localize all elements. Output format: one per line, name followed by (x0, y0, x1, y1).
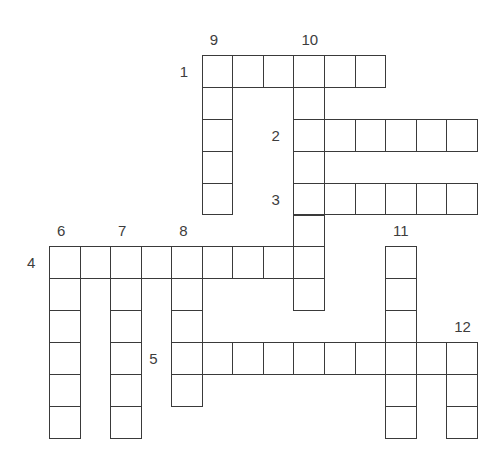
crossword-cell[interactable] (385, 342, 417, 375)
clue-number-across: 3 (271, 192, 279, 207)
clue-number-down: 10 (301, 32, 318, 47)
crossword-cell[interactable] (293, 246, 325, 279)
crossword-cell[interactable] (385, 310, 417, 343)
clue-number-down: 9 (210, 32, 218, 47)
crossword-cell[interactable] (324, 183, 356, 216)
crossword-cell[interactable] (202, 342, 234, 375)
crossword-cell[interactable] (110, 406, 142, 439)
clue-number-down: 11 (393, 223, 409, 238)
crossword-cell[interactable] (355, 55, 387, 88)
crossword-cell[interactable] (416, 342, 448, 375)
crossword-cell[interactable] (446, 183, 478, 216)
crossword-cell[interactable] (355, 183, 387, 216)
clue-number-across: 5 (149, 351, 157, 366)
crossword-cell[interactable] (385, 374, 417, 407)
crossword-cell[interactable] (324, 55, 356, 88)
crossword-cell[interactable] (446, 406, 478, 439)
crossword-cell[interactable] (355, 119, 387, 152)
crossword-cell[interactable] (232, 342, 264, 375)
crossword-cell[interactable] (293, 183, 325, 216)
crossword-cell[interactable] (293, 55, 325, 88)
crossword-cell[interactable] (416, 119, 448, 152)
crossword-cell[interactable] (110, 374, 142, 407)
crossword-cell[interactable] (49, 278, 81, 311)
crossword-cell[interactable] (49, 406, 81, 439)
crossword-cell[interactable] (293, 87, 325, 120)
crossword-cell[interactable] (232, 55, 264, 88)
crossword-cell[interactable] (293, 151, 325, 184)
crossword-cell[interactable] (49, 246, 81, 279)
crossword-cell[interactable] (110, 342, 142, 375)
crossword-cell[interactable] (110, 246, 142, 279)
crossword-cell[interactable] (49, 310, 81, 343)
crossword-grid: 123456789101112 (0, 0, 502, 460)
crossword-cell[interactable] (110, 278, 142, 311)
crossword-cell[interactable] (385, 246, 417, 279)
crossword-cell[interactable] (263, 342, 295, 375)
clue-number-down: 8 (179, 223, 187, 238)
crossword-cell[interactable] (446, 342, 478, 375)
crossword-cell[interactable] (293, 278, 325, 311)
crossword-cell[interactable] (232, 246, 264, 279)
crossword-cell[interactable] (263, 55, 295, 88)
crossword-cell[interactable] (110, 310, 142, 343)
crossword-cell[interactable] (202, 119, 234, 152)
crossword-cell[interactable] (416, 183, 448, 216)
clue-number-down: 12 (454, 319, 471, 334)
crossword-cell[interactable] (141, 246, 173, 279)
clue-number-down: 7 (118, 223, 126, 238)
crossword-cell[interactable] (324, 119, 356, 152)
crossword-cell[interactable] (80, 246, 112, 279)
crossword-cell[interactable] (293, 215, 325, 248)
clue-number-across: 4 (27, 255, 35, 270)
crossword-cell[interactable] (446, 374, 478, 407)
crossword-cell[interactable] (202, 55, 234, 88)
crossword-cell[interactable] (171, 310, 203, 343)
crossword-cell[interactable] (385, 278, 417, 311)
clue-number-across: 2 (271, 128, 279, 143)
crossword-cell[interactable] (171, 342, 203, 375)
crossword-cell[interactable] (293, 342, 325, 375)
crossword-cell[interactable] (385, 119, 417, 152)
crossword-cell[interactable] (49, 374, 81, 407)
crossword-cell[interactable] (202, 183, 234, 216)
crossword-cell[interactable] (49, 342, 81, 375)
crossword-cell[interactable] (385, 406, 417, 439)
crossword-cell[interactable] (202, 246, 234, 279)
crossword-cell[interactable] (202, 151, 234, 184)
clue-number-across: 1 (180, 64, 188, 79)
crossword-cell[interactable] (263, 246, 295, 279)
crossword-cell[interactable] (355, 342, 387, 375)
crossword-cell[interactable] (385, 183, 417, 216)
crossword-cell[interactable] (202, 87, 234, 120)
crossword-cell[interactable] (324, 342, 356, 375)
crossword-cell[interactable] (171, 374, 203, 407)
crossword-cell[interactable] (446, 119, 478, 152)
crossword-cell[interactable] (171, 246, 203, 279)
crossword-cell[interactable] (171, 278, 203, 311)
clue-number-down: 6 (57, 223, 65, 238)
crossword-cell[interactable] (293, 119, 325, 152)
